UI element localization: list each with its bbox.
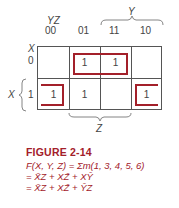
eq-term: ȲZ: [80, 182, 92, 193]
col-header-10: 10: [140, 26, 151, 36]
equation-line-2: = X̄Z + XZ̄ + XȲ: [26, 172, 93, 182]
loop-x-zbar-right: [135, 84, 158, 106]
eq-prefix: =: [26, 182, 34, 193]
eq-prefix: =: [26, 171, 34, 182]
row-header-1: 1: [28, 90, 34, 100]
loop-x-zbar-left: [41, 84, 64, 106]
eq-term: XZ̄: [57, 171, 69, 182]
eq-term: XȲ: [80, 171, 93, 182]
brace-x-label: X: [8, 90, 15, 100]
equation-line-1: F(X, Y, Z) = Σm(1, 3, 4, 5, 6): [26, 161, 144, 171]
row-var-label: X: [28, 44, 35, 54]
eq-term: X̄Z: [34, 182, 46, 193]
figure-title: FIGURE 2-14: [26, 146, 92, 158]
cell-1-01: 1: [69, 89, 100, 100]
col-header-11: 11: [109, 26, 119, 36]
eq-term: XZ̄: [57, 182, 69, 193]
brace-z-label: Z: [96, 124, 102, 134]
row-header-0: 0: [28, 56, 34, 66]
equation-line-3: = X̄Z + XZ̄ + ȲZ: [26, 183, 92, 193]
col-header-00: 00: [45, 26, 56, 36]
brace-y-label: Y: [128, 7, 135, 17]
brace-x-icon: [17, 78, 27, 112]
col-header-01: 01: [78, 26, 89, 36]
eq-term: X̄Z: [34, 171, 46, 182]
loop-xbar-z: [73, 53, 128, 75]
grid-divider: [38, 78, 161, 79]
